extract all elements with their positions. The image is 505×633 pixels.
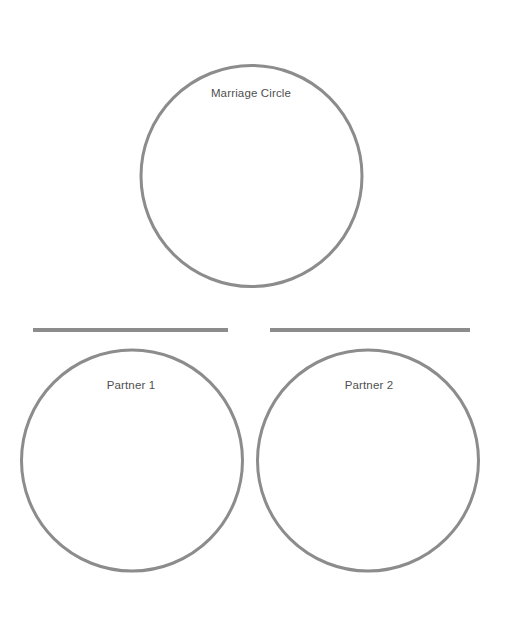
right-divider-bar <box>270 328 470 332</box>
partner-1-circle-label: Partner 1 <box>107 379 156 391</box>
worksheet-canvas: Marriage Circle Partner 1 Partner 2 <box>0 0 505 633</box>
partner-2-circle-label: Partner 2 <box>345 379 394 391</box>
left-divider-bar <box>33 328 228 332</box>
marriage-circle-label: Marriage Circle <box>211 87 291 99</box>
